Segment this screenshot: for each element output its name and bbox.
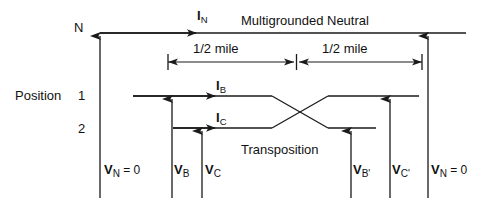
voltage-label-vb-prime: VB' [353,163,370,176]
voltage-vn-left-suffix: = 0 [120,163,140,177]
current-ib-sub: B [220,84,226,95]
voltage-vn-left-sub: N [113,168,120,179]
phase-conductor-position-1 [133,96,376,128]
dimension-line-half-mile [168,54,422,70]
current-label-in: IN [197,9,208,22]
voltage-vn-right-suffix: = 0 [447,163,467,177]
transposition-label: Transposition [241,143,319,156]
position-label: Position [15,89,61,102]
position-row-1: 1 [78,89,85,102]
voltage-label-vn-right: VN = 0 [431,163,467,176]
voltage-label-vc: VC [205,163,221,176]
current-label-ib: IB [216,79,226,92]
multigrounded-neutral-title: Multigrounded Neutral [241,14,369,27]
position-row-2: 2 [78,122,85,135]
voltage-vc-prime-main: V [392,162,401,177]
voltage-vc-prime-sub: C' [401,168,410,179]
current-in-sub: N [201,14,208,25]
voltage-label-vc-prime: VC' [392,163,410,176]
voltage-vn-right-main: V [431,162,440,177]
current-label-ic: IC [216,111,227,124]
voltage-vn-left-main: V [104,162,113,177]
voltage-vb-main: V [174,162,183,177]
voltage-vb-prime-main: V [353,162,362,177]
dimension-label-left: 1/2 mile [193,42,239,55]
voltage-vb-prime-sub: B' [362,168,371,179]
node-label-n: N [74,21,83,34]
voltage-vc-main: V [205,162,214,177]
voltage-vc-sub: C [214,168,221,179]
dimension-label-right: 1/2 mile [322,42,368,55]
voltage-vb-sub: B [183,168,190,179]
voltage-vn-right-sub: N [440,168,447,179]
voltage-label-vb: VB [174,163,189,176]
phase-conductor-position-2 [173,96,419,128]
current-ic-sub: C [220,116,227,127]
voltage-label-vn-left: VN = 0 [104,163,140,176]
transposition-diagram: N Multigrounded Neutral IN 1/2 mile 1/2 … [0,0,493,203]
